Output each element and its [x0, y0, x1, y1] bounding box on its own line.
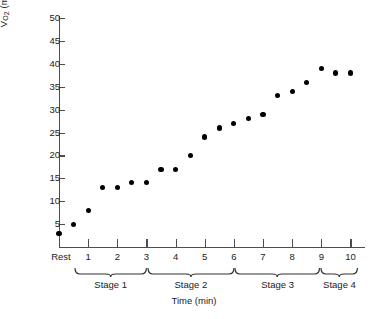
data-point [319, 66, 324, 71]
stage-brace [75, 268, 146, 277]
x-tick [292, 239, 293, 247]
stage-brace [321, 268, 357, 277]
y-tick-label: 15 [32, 173, 60, 183]
stage-label: Stage 3 [235, 279, 320, 290]
data-point [158, 167, 163, 172]
x-tick [88, 239, 89, 247]
x-tick-label-rest: Rest [41, 251, 81, 262]
data-point [115, 185, 120, 190]
x-tick [176, 239, 177, 247]
x-axis-title: Time (min) [0, 295, 388, 306]
data-point [56, 231, 61, 236]
y-tick-label: 25 [32, 128, 60, 138]
data-point [188, 153, 193, 158]
x-tick-label: 10 [330, 251, 370, 262]
x-axis-line [59, 247, 365, 248]
data-point [304, 80, 309, 85]
data-point [173, 167, 178, 172]
data-point [231, 121, 236, 126]
stage-label: Stage 1 [75, 279, 146, 290]
y-tick-label: 30 [32, 105, 60, 115]
data-point [202, 134, 207, 139]
y-tick-label: 40 [32, 59, 60, 69]
data-point [333, 70, 338, 75]
v-dot-symbol: V [0, 21, 9, 27]
data-point [144, 180, 149, 185]
data-point [246, 116, 251, 121]
data-point [275, 93, 280, 98]
y-tick-label: 50 [32, 13, 60, 23]
y-axis-title: VO2 (ml·kg−1·min−1) [0, 0, 10, 60]
data-point [290, 89, 295, 94]
figure-vo2-vs-time: VO2 (ml·kg−1·min−1) 5101520253035404550 … [0, 0, 388, 319]
x-tick [205, 239, 206, 247]
x-tick [117, 239, 118, 247]
data-point [217, 125, 222, 130]
x-tick [350, 239, 351, 247]
y-tick-label: 20 [32, 150, 60, 160]
x-tick [234, 239, 235, 247]
stage-brace [148, 268, 234, 277]
data-point [71, 222, 76, 227]
data-point [100, 185, 105, 190]
y-axis-units: (ml·kg−1·min−1) [0, 0, 9, 8]
y-tick-label: 10 [32, 196, 60, 206]
y-tick-label: 35 [32, 82, 60, 92]
y-tick-label: 5 [32, 219, 60, 229]
data-point [86, 208, 91, 213]
data-point [129, 180, 134, 185]
o2-subscript: O2 [2, 11, 9, 21]
x-tick [146, 239, 147, 247]
stage-brace [235, 268, 320, 277]
y-tick-label: 45 [32, 36, 60, 46]
data-point [260, 112, 265, 117]
stage-label: Stage 2 [148, 279, 234, 290]
x-tick [321, 239, 322, 247]
x-tick [263, 239, 264, 247]
stage-label: Stage 4 [321, 279, 357, 290]
data-point [348, 70, 353, 75]
